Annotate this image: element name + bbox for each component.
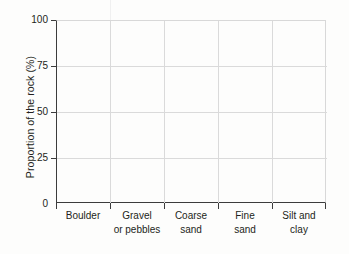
x-category-label-fine-sand: Fine sand (218, 209, 272, 236)
y-tick-label-100: 100 (8, 15, 48, 25)
gridline-vertical-2 (164, 21, 165, 204)
x-category-label-gravel-or-pebbles: Gravel or pebbles (110, 209, 164, 236)
bar-chart-figure: Proportion of the rock (%) 100 75 50 25 … (0, 0, 349, 254)
gridline-horizontal-50 (57, 112, 327, 113)
x-category-line2: clay (272, 223, 326, 237)
gridline-horizontal-75 (57, 66, 327, 67)
gridline-vertical-4 (272, 21, 273, 204)
y-tick-label-50: 50 (8, 107, 48, 117)
x-category-label-coarse-sand: Coarse sand (164, 209, 218, 236)
x-category-line1: Silt and (282, 210, 315, 221)
y-tick-label-25: 25 (8, 153, 48, 163)
scan-artifact-line (110, 0, 111, 20)
plot-area (56, 20, 326, 203)
x-category-line1: Coarse (175, 210, 207, 221)
x-category-line2: or pebbles (110, 223, 164, 237)
x-category-line2: sand (164, 223, 218, 237)
x-category-line1: Boulder (66, 210, 100, 221)
y-tick-label-0: 0 (8, 199, 48, 209)
x-category-label-boulder: Boulder (56, 209, 110, 223)
x-category-line1: Gravel (122, 210, 151, 221)
gridline-vertical-1 (110, 21, 111, 204)
gridline-vertical-3 (218, 21, 219, 204)
x-category-line2: sand (218, 223, 272, 237)
x-category-label-silt-and-clay: Silt and clay (272, 209, 326, 236)
gridline-horizontal-25 (57, 158, 327, 159)
y-tick-label-75: 75 (8, 61, 48, 71)
x-category-line1: Fine (235, 210, 254, 221)
